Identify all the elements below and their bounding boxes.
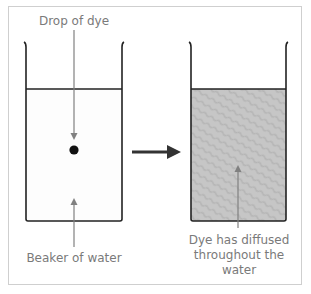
dye-diffused-label: Dye has diffused throughout the water: [176, 233, 302, 278]
dye-drop: [69, 145, 78, 154]
right-arrow-icon: [132, 145, 181, 159]
right-beaker: [189, 42, 288, 228]
drop-of-dye-label: Drop of dye: [26, 14, 122, 28]
left-beaker: [24, 30, 124, 247]
beaker-of-water-label: Beaker of water: [12, 251, 136, 265]
